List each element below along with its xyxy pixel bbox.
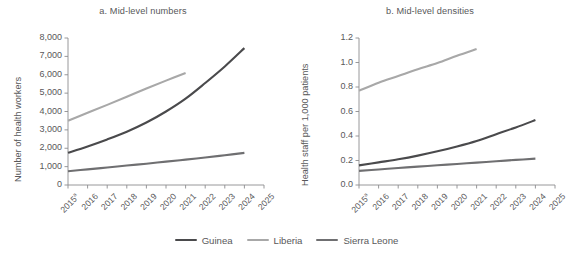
legend-label-liberia: Liberia	[274, 235, 303, 246]
chart-panel-mid-level-numbers: a. Mid-level numbers Number of health wo…	[0, 0, 286, 225]
panel-a-y-tick-label: 5,000	[39, 88, 62, 97]
panel-b-y-tick-label: 1.2	[340, 33, 353, 42]
panel-b-y-tick-label: 0.0	[340, 180, 353, 189]
legend-swatch-sierra-leone	[316, 239, 338, 241]
panel-b-y-tick-label: 1.0	[340, 58, 353, 67]
legend-item-guinea: Guinea	[175, 235, 233, 246]
panel-a-y-tick-label: 0	[57, 180, 62, 189]
panel-a-y-tick-label: 1,000	[39, 162, 62, 171]
panel-a-y-tick-label: 6,000	[39, 70, 62, 79]
panel-a-y-tick-label: 2,000	[39, 143, 62, 152]
panel-a-y-tick-label: 4,000	[39, 107, 62, 116]
legend-label-guinea: Guinea	[202, 235, 233, 246]
panel-b-y-tick-label: 0.8	[340, 82, 353, 91]
panel-b-y-tick-label: 0.6	[340, 107, 353, 116]
legend-item-liberia: Liberia	[247, 235, 303, 246]
panel-b-y-tick-label: 0.2	[340, 156, 353, 165]
chart-panel-mid-level-densities: b. Mid-level densities Health staff per …	[287, 0, 573, 225]
panel-a-y-tick-label: 3,000	[39, 125, 62, 134]
panel-b-plot	[287, 0, 573, 225]
figure-container: a. Mid-level numbers Number of health wo…	[0, 0, 573, 253]
legend-swatch-guinea	[175, 239, 197, 241]
chart-legend: Guinea Liberia Sierra Leone	[0, 228, 573, 252]
legend-item-sierra-leone: Sierra Leone	[316, 235, 398, 246]
panel-b-y-tick-label: 0.4	[340, 131, 353, 140]
panel-a-y-tick-label: 7,000	[39, 51, 62, 60]
legend-label-sierra-leone: Sierra Leone	[343, 235, 398, 246]
legend-swatch-liberia	[247, 239, 269, 241]
panel-a-y-tick-label: 8,000	[39, 33, 62, 42]
